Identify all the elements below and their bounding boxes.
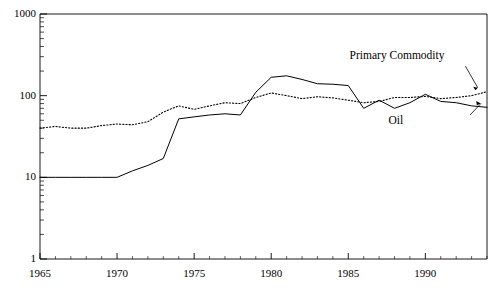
chart-plot-area	[0, 0, 502, 293]
x-axis-tick-label: 1975	[169, 267, 219, 279]
x-axis-tick-label: 1980	[246, 267, 296, 279]
primary-commodity-label: Primary Commodity	[350, 49, 445, 61]
y-axis-tick-label: 10	[4, 170, 36, 182]
data-series	[40, 76, 487, 178]
series-line-oil	[40, 76, 487, 178]
x-axis-tick-label: 1990	[400, 267, 450, 279]
oil-label: Oil	[389, 114, 404, 126]
annotation-leaders	[465, 66, 480, 115]
y-axis-tick-label: 100	[4, 89, 36, 101]
chart-container: 1101001000196519701975198019851990Primar…	[0, 0, 502, 293]
y-axis-tick-label: 1	[4, 252, 36, 264]
x-axis-tick-label: 1965	[15, 267, 65, 279]
x-axis-tick-label: 1970	[92, 267, 142, 279]
y-axis-tick-label: 1000	[4, 7, 36, 19]
x-axis-tick-label: 1985	[323, 267, 373, 279]
